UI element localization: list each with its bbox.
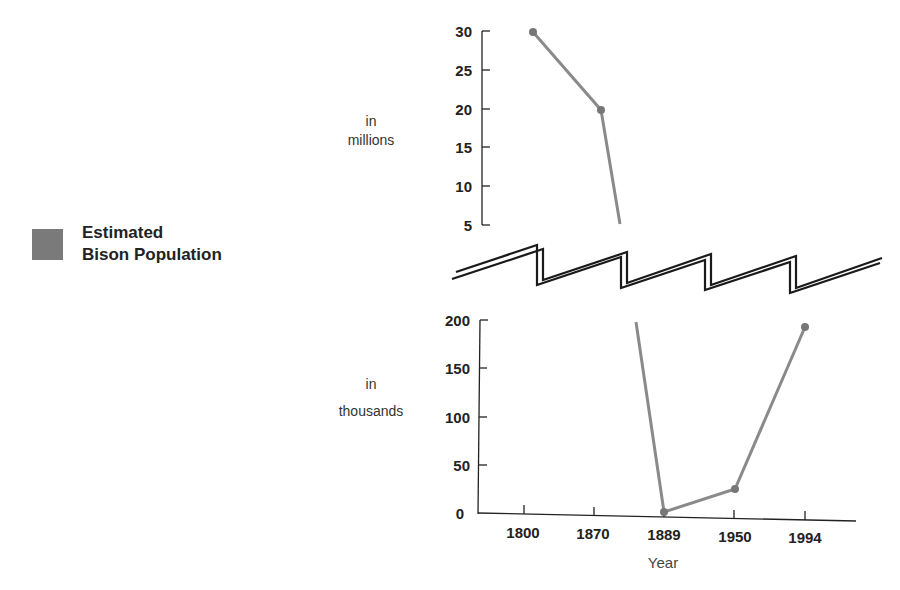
tick-label: 10	[455, 178, 472, 195]
tick-label: 50	[453, 457, 470, 474]
upper-unit-label-1: in	[366, 113, 377, 129]
x-axis-title: Year	[648, 554, 678, 571]
bison-chart: 30 25 20 15 10 5 in millions 200 150 100	[0, 0, 900, 590]
tick-label: 15	[455, 139, 472, 156]
upper-y-tick-labels: 30 25 20 15 10 5	[455, 23, 472, 234]
tick-label: 25	[455, 62, 472, 79]
data-point-1994	[801, 323, 809, 331]
data-point-1889	[660, 508, 668, 516]
tick-label: 150	[445, 360, 470, 377]
data-point-1800	[529, 28, 537, 36]
axis-break-icon	[452, 245, 882, 293]
lower-data-line	[636, 322, 809, 516]
tick-label: 30	[455, 23, 472, 40]
upper-y-axis	[482, 31, 490, 225]
tick-label: 100	[445, 409, 470, 426]
tick-label: 0	[456, 505, 464, 522]
tick-label: 20	[455, 101, 472, 118]
tick-label: 1994	[788, 529, 822, 546]
x-tick-labels: 1800 1870 1889 1950 1994	[506, 524, 822, 546]
data-point-1950	[731, 485, 739, 493]
upper-unit-label-2: millions	[348, 132, 395, 148]
lower-y-tick-labels: 200 150 100 50 0	[445, 312, 470, 522]
lower-unit-label-2: thousands	[339, 403, 404, 419]
tick-label: 1950	[718, 528, 751, 545]
tick-label: 200	[445, 312, 470, 329]
lower-unit-label-1: in	[366, 376, 377, 392]
tick-label: 1800	[506, 524, 539, 541]
tick-label: 1870	[576, 525, 609, 542]
tick-label: 5	[464, 217, 472, 234]
data-point-1870	[597, 106, 605, 114]
lower-y-axis	[478, 320, 488, 514]
tick-label: 1889	[647, 526, 680, 543]
upper-data-line	[529, 28, 620, 224]
